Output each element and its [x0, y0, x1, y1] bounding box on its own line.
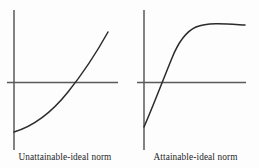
chart-unattainable-ideal: [0, 0, 129, 152]
figure-pair: Unattainable-ideal norm Attainable-ideal…: [0, 0, 259, 168]
caption-unattainable-ideal: Unattainable-ideal norm: [0, 151, 129, 163]
panel-attainable-ideal: Attainable-ideal norm: [130, 0, 259, 168]
plot-area-unattainable-ideal: [0, 0, 129, 152]
chart-attainable-ideal: [130, 0, 259, 152]
plot-area-attainable-ideal: [130, 0, 259, 152]
panel-unattainable-ideal: Unattainable-ideal norm: [0, 0, 129, 168]
curve-attainable-ideal: [144, 24, 245, 127]
caption-attainable-ideal: Attainable-ideal norm: [130, 151, 259, 163]
